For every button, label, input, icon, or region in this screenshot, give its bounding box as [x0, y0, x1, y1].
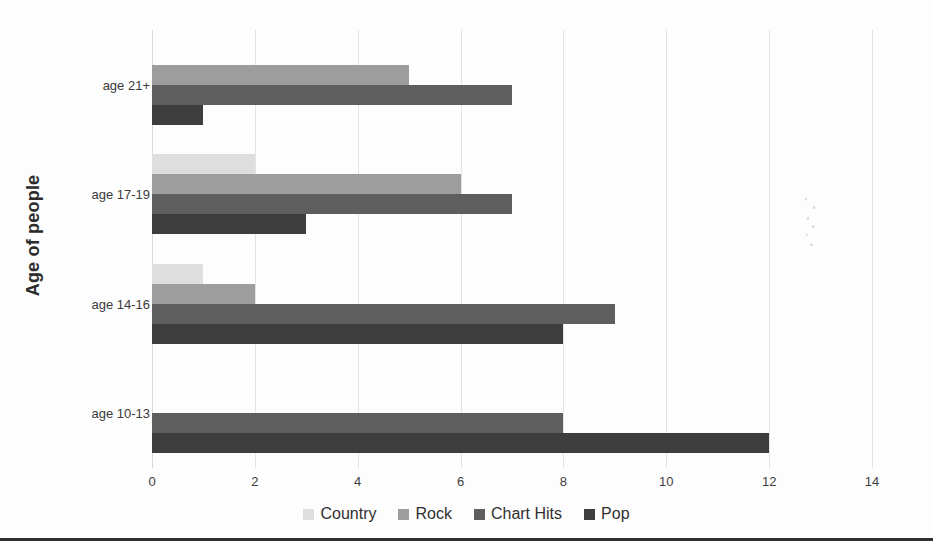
bar[interactable]: [152, 284, 255, 304]
scan-artifact-smudge: [798, 192, 824, 252]
bar[interactable]: [152, 413, 563, 433]
legend-swatch-icon: [474, 509, 485, 520]
bar-group: [152, 264, 872, 344]
legend-item[interactable]: Chart Hits: [474, 505, 562, 523]
legend-swatch-icon: [303, 509, 314, 520]
x-tick-label: 12: [762, 474, 776, 489]
chart-page: Age of people age 21+age 17-19age 14-16a…: [0, 0, 933, 546]
y-axis-title-label: Age of people: [24, 174, 45, 296]
legend-item[interactable]: Rock: [398, 505, 451, 523]
legend-swatch-icon: [584, 509, 595, 520]
bar-group: [152, 373, 872, 453]
x-tick-label: 8: [560, 474, 567, 489]
category-label: age 14-16: [91, 296, 150, 311]
x-tick-label: 10: [659, 474, 673, 489]
bar[interactable]: [152, 194, 512, 214]
bar-group: [152, 45, 872, 125]
category-label: age 21+: [103, 77, 150, 92]
chart-legend: CountryRockChart HitsPop: [0, 505, 933, 523]
bar[interactable]: [152, 214, 306, 234]
legend-label: Rock: [415, 505, 451, 523]
bar[interactable]: [152, 154, 255, 174]
bar[interactable]: [152, 65, 409, 85]
x-tick-label: 0: [148, 474, 155, 489]
x-axis-tick-labels: 02468101214: [152, 474, 872, 500]
bar[interactable]: [152, 433, 769, 453]
y-axis-title: Age of people: [6, 0, 62, 470]
category-label: age 17-19: [91, 187, 150, 202]
plot-wrapper: age 21+age 17-19age 14-16age 10-13: [62, 18, 872, 468]
legend-label: Pop: [601, 505, 629, 523]
x-tick-label: 14: [865, 474, 879, 489]
x-tick-label: 6: [457, 474, 464, 489]
bar-group: [152, 154, 872, 234]
bar[interactable]: [152, 324, 563, 344]
scanned-page-edge-shadow: [0, 541, 933, 546]
category-label: age 10-13: [91, 406, 150, 421]
bar[interactable]: [152, 85, 512, 105]
bar[interactable]: [152, 105, 203, 125]
legend-item[interactable]: Pop: [584, 505, 629, 523]
bar[interactable]: [152, 264, 203, 284]
category-axis-labels: age 21+age 17-19age 14-16age 10-13: [62, 30, 150, 468]
legend-label: Chart Hits: [491, 505, 562, 523]
legend-swatch-icon: [398, 509, 409, 520]
x-tick-label: 4: [354, 474, 361, 489]
legend-item[interactable]: Country: [303, 505, 376, 523]
bar[interactable]: [152, 304, 615, 324]
x-tick-label: 2: [251, 474, 258, 489]
legend-label: Country: [320, 505, 376, 523]
gridline-14: [872, 30, 873, 468]
bar[interactable]: [152, 174, 461, 194]
plot-area: [152, 30, 872, 468]
